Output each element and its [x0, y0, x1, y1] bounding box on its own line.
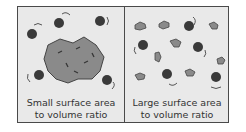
caption-large-line1: Large surface area	[132, 97, 221, 108]
caption-large-line2: to volume ratio	[141, 109, 214, 120]
caption-small-line1: Small surface area	[27, 97, 116, 108]
diagram-frame: Small surface area to volume ratio	[17, 6, 229, 123]
panel-small-surface-area: Small surface area to volume ratio	[18, 7, 124, 122]
caption-small-line2: to volume ratio	[35, 109, 108, 120]
small-solid-illustration: Small surface area to volume ratio	[18, 7, 124, 124]
panel-large-surface-area: Large surface area to volume ratio	[125, 7, 229, 122]
powder-illustration: Large surface area to volume ratio	[125, 7, 229, 124]
